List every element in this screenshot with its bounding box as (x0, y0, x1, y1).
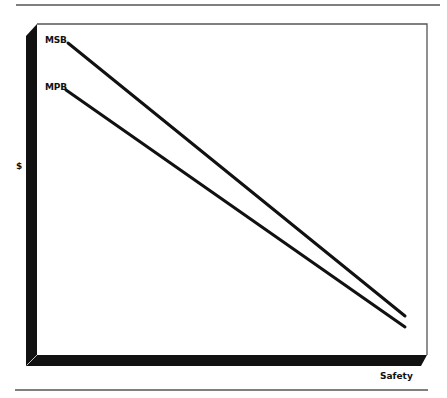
y-axis-label: $ (16, 161, 22, 171)
chart-canvas (0, 0, 447, 398)
x-axis-floor (26, 355, 427, 366)
msb-line (68, 43, 405, 316)
mpb-label: MPB (45, 82, 67, 92)
mpb-line (66, 90, 405, 327)
msb-label: MSB (45, 35, 67, 45)
plot-frame (37, 24, 427, 355)
x-axis-label: Safety (380, 371, 413, 381)
y-axis-wall (26, 24, 37, 366)
